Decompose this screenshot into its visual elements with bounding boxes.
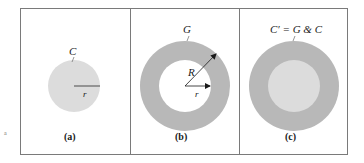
panel-b: G R r (b) [140,23,230,143]
caption-a: (a) [64,131,76,143]
shape-label-c: C [69,45,77,57]
caption-c: (c) [285,131,296,143]
panel-a: C r (a) [48,45,100,143]
radius-label-R: R [187,66,195,78]
panel-c: C′ = G & C (c) [249,23,339,143]
label-leader-c-prime [293,36,295,41]
radius-label-r: r [83,89,87,99]
disk-c-inner [268,60,320,112]
figure-diagram: C r (a) G R r (b) C′ = G & C (c) [0,0,364,163]
shape-label-c-prime: C′ = G & C [270,23,323,35]
radius-label-r: r [195,89,199,99]
shape-label-g: G [183,23,191,35]
caption-b: (b) [175,131,187,143]
label-leader-g [187,36,189,41]
